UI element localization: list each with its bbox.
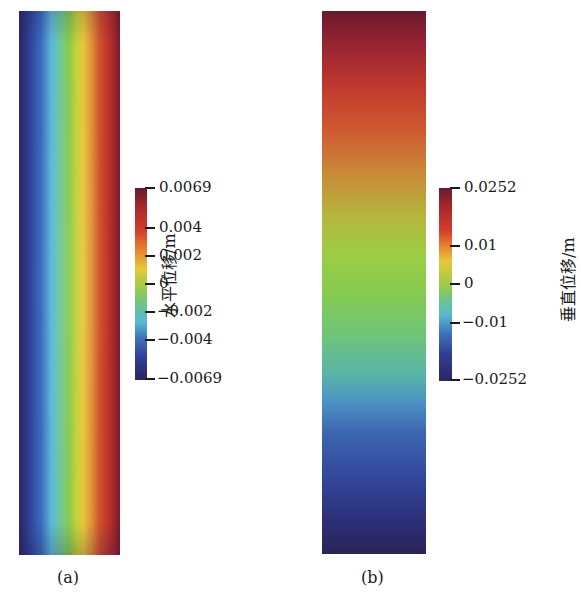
colorbar-tick-label: −0.0252 <box>462 372 527 387</box>
colorbar-tick <box>145 378 155 380</box>
colorbar-tick-label: 0.0252 <box>464 180 517 195</box>
colorbar-tick <box>145 339 155 341</box>
horizontal-displacement-field <box>19 11 120 555</box>
colorbar-tick-label: −0.0069 <box>157 371 222 386</box>
colorbar-tick <box>145 227 155 229</box>
colorbar-tick <box>145 255 155 257</box>
colorbar-tick <box>450 379 460 381</box>
subfigure-label-a: (a) <box>57 568 79 587</box>
colorbar-tick-label: 0 <box>464 276 474 291</box>
colorbar-tick <box>145 311 155 313</box>
colorbar-tick <box>450 245 460 247</box>
colorbar-tick <box>145 187 155 189</box>
colorbar-tick-label: 0.0069 <box>159 180 212 195</box>
colorbar-tick-label: −0.01 <box>462 315 508 330</box>
colorbar-tick <box>450 322 460 324</box>
colorbar-a-title: 水平位移/m <box>156 233 180 318</box>
colorbar-tick <box>145 283 155 285</box>
colorbar-tick <box>450 283 460 285</box>
colorbar-b-title: 垂直位移/m <box>555 237 579 322</box>
colorbar-tick <box>450 187 460 189</box>
colorbar-tick-label: 0.01 <box>464 238 497 253</box>
colorbar-tick-label: −0.004 <box>157 332 213 347</box>
subfigure-label-b: (b) <box>361 568 384 587</box>
vertical-displacement-field <box>322 11 426 554</box>
